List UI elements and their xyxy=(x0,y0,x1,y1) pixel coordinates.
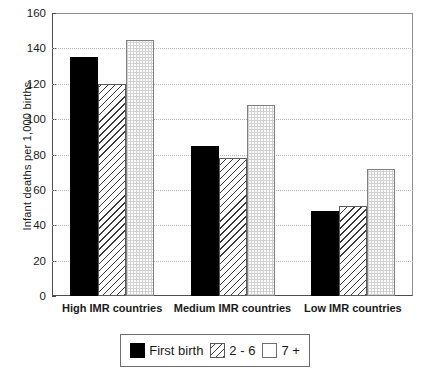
legend-entry: First birth xyxy=(130,343,203,358)
legend-label: 7 + xyxy=(281,343,299,358)
y-tick-label: 0 xyxy=(0,290,46,302)
legend-entry: 7 + xyxy=(262,343,299,358)
bar xyxy=(126,40,154,296)
gridline xyxy=(52,48,413,49)
y-tick-label: 120 xyxy=(0,78,46,90)
bar xyxy=(339,206,367,296)
y-tick-label: 160 xyxy=(0,7,46,19)
y-tick-label: 40 xyxy=(0,219,46,231)
y-tick-mark xyxy=(52,13,56,14)
y-tick-label: 140 xyxy=(0,42,46,54)
legend-label: First birth xyxy=(149,343,203,358)
y-tick-mark xyxy=(52,296,56,297)
legend-label: 2 - 6 xyxy=(229,343,255,358)
x-tick-label: Low IMR countries xyxy=(304,302,402,314)
bar xyxy=(219,158,247,296)
bar xyxy=(191,146,219,296)
infant-mortality-bar-chart: Infant deaths per 1,000 births 020406080… xyxy=(0,0,429,377)
bar xyxy=(98,84,126,296)
y-tick-label: 80 xyxy=(0,149,46,161)
bar xyxy=(247,105,275,296)
y-tick-label: 60 xyxy=(0,184,46,196)
y-tick-label: 20 xyxy=(0,255,46,267)
x-tick-label: High IMR countries xyxy=(62,302,162,314)
legend-swatch-icon xyxy=(262,343,277,358)
x-tick-label: Medium IMR countries xyxy=(174,302,291,314)
legend-entry: 2 - 6 xyxy=(210,343,255,358)
chart-legend: First birth2 - 67 + xyxy=(120,334,310,367)
legend-swatch-icon xyxy=(210,343,225,358)
bar xyxy=(311,211,339,296)
legend-swatch-icon xyxy=(130,343,145,358)
bar xyxy=(70,57,98,296)
bar xyxy=(367,169,395,296)
y-tick-label: 100 xyxy=(0,113,46,125)
